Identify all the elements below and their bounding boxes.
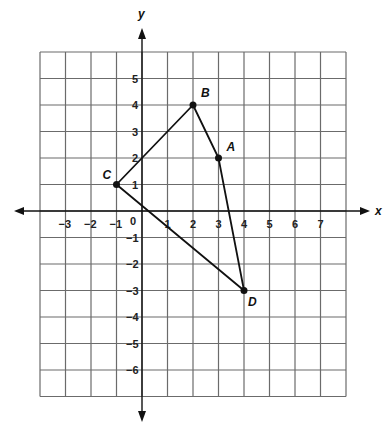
y-tick-label: −6 <box>126 364 139 376</box>
y-tick-label: −3 <box>126 285 139 297</box>
point-d-label: D <box>248 295 257 309</box>
x-tick-label: 4 <box>241 218 248 230</box>
x-axis-label: x <box>374 204 383 218</box>
x-axis-left-arrow-icon <box>14 207 24 215</box>
x-tick-label: 5 <box>267 218 273 230</box>
y-axis-up-arrow-icon <box>138 28 146 39</box>
y-tick-label: 5 <box>132 73 138 85</box>
y-tick-label: −1 <box>126 232 139 244</box>
y-axis-label: y <box>137 7 146 21</box>
point-a-label: A <box>226 140 236 154</box>
point-c-marker <box>113 181 120 188</box>
point-d-marker <box>241 287 248 294</box>
y-tick-label: 1 <box>132 179 138 191</box>
x-tick-label: −2 <box>84 218 97 230</box>
x-axis-right-arrow-icon <box>360 207 370 215</box>
y-tick-label: −2 <box>126 258 139 270</box>
x-tick-label: 2 <box>190 218 196 230</box>
point-c-label: C <box>103 168 112 182</box>
y-tick-label: 3 <box>132 126 138 138</box>
x-tick-label: 3 <box>216 218 222 230</box>
x-tick-label: −1 <box>110 218 123 230</box>
y-axis-down-arrow-icon <box>138 411 146 422</box>
point-a-marker <box>215 155 222 162</box>
point-b-label: B <box>201 86 210 100</box>
origin-label: 0 <box>130 215 136 227</box>
x-tick-label: 7 <box>318 218 324 230</box>
coordinate-plane: xy−3−2−11234567054321−1−2−3−4−5−6ABCD <box>0 0 388 427</box>
y-tick-label: −4 <box>126 311 139 323</box>
point-b-marker <box>190 102 197 109</box>
coordinate-plane-svg: xy−3−2−11234567054321−1−2−3−4−5−6ABCD <box>0 0 388 427</box>
y-tick-label: 4 <box>132 99 139 111</box>
y-tick-label: −5 <box>126 338 139 350</box>
x-tick-label: 6 <box>292 218 298 230</box>
x-tick-label: −3 <box>59 218 72 230</box>
